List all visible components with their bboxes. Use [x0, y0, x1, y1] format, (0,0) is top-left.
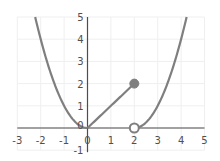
x-tick-label: 4 — [178, 135, 184, 146]
piecewise-function-chart: -3-2-1012345 -1012345 — [0, 0, 220, 161]
x-tick-label: -2 — [36, 135, 46, 146]
curve-right-parabola — [134, 17, 186, 128]
x-tick-label: 1 — [108, 135, 114, 146]
closed-point-marker — [130, 79, 139, 88]
y-tick-label: -1 — [74, 145, 84, 156]
y-tick-label: 1 — [77, 101, 83, 112]
x-tick-label: 2 — [131, 135, 137, 146]
x-tick-label: -3 — [12, 135, 22, 146]
y-tick-label: 0 — [77, 120, 83, 131]
x-tick-labels: -3-2-1012345 — [12, 135, 207, 146]
x-tick-label: 0 — [84, 135, 90, 146]
y-tick-label: 5 — [77, 12, 83, 23]
grid-lines — [17, 17, 204, 150]
y-tick-label: 4 — [77, 34, 83, 45]
x-tick-label: 5 — [201, 135, 207, 146]
x-tick-label: -1 — [59, 135, 69, 146]
x-tick-label: 3 — [155, 135, 161, 146]
y-tick-label: 3 — [77, 56, 83, 67]
open-point-marker — [130, 124, 139, 133]
y-tick-label: 2 — [77, 79, 83, 90]
